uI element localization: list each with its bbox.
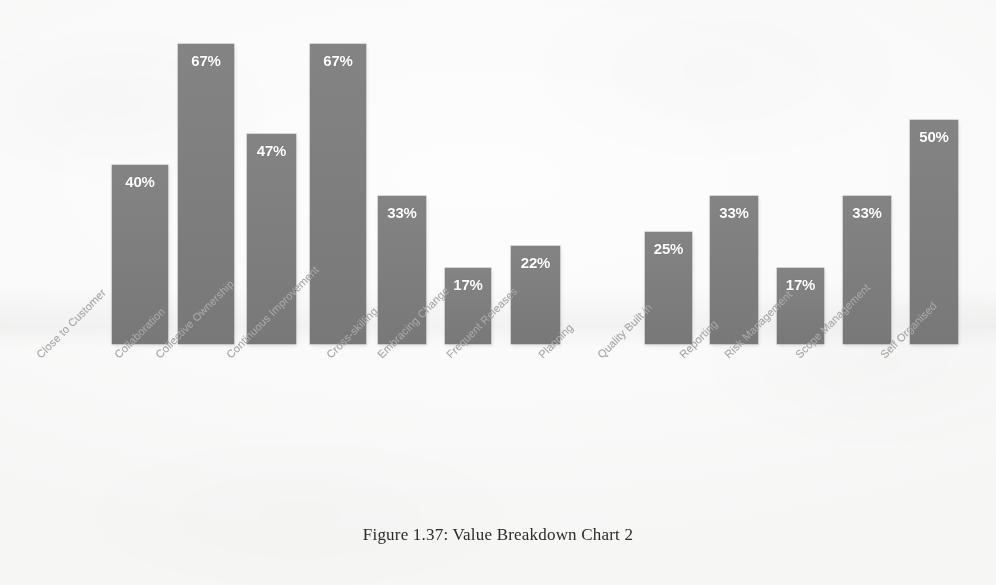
bar: 25%	[645, 232, 692, 344]
bar-slot	[578, 0, 627, 344]
bar-slot: 40%	[112, 0, 168, 344]
bar-chart-plot-area: 40%67%47%67%33%17%22%25%33%17%33%50%	[0, 0, 996, 344]
bar-slot: 33%	[378, 0, 426, 344]
bar: 67%	[310, 44, 366, 344]
bar-slot: 25%	[645, 0, 692, 344]
bar-value-label: 40%	[112, 174, 168, 189]
bar-value-label: 47%	[247, 143, 296, 158]
bar-value-label: 33%	[843, 205, 891, 220]
bar-value-label: 25%	[645, 241, 692, 256]
bar-slot: 33%	[710, 0, 758, 344]
bar-slot: 50%	[910, 0, 958, 344]
bar: 22%	[511, 246, 560, 344]
bar-value-label: 33%	[378, 205, 426, 220]
bar-value-label: 67%	[178, 53, 234, 68]
bar-value-label: 17%	[445, 277, 491, 292]
figure-container: 40%67%47%67%33%17%22%25%33%17%33%50% Clo…	[0, 0, 996, 585]
bar-value-label: 33%	[710, 205, 758, 220]
bar-slot: 17%	[445, 0, 491, 344]
figure-caption: Figure 1.37: Value Breakdown Chart 2	[0, 525, 996, 545]
bar-value-label: 67%	[310, 53, 366, 68]
bar-slot: 67%	[310, 0, 366, 344]
bar: 33%	[843, 196, 891, 344]
bar-value-label: 22%	[511, 255, 560, 270]
bar-value-label: 50%	[910, 129, 958, 144]
category-axis-labels: Close to CustomerCollaborationCollective…	[0, 344, 996, 494]
